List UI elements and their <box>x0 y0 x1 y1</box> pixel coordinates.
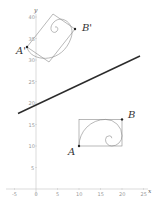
x-tick-label: 0 <box>35 191 38 197</box>
point-b-prime-label: B' <box>81 22 92 33</box>
y-tick-label: 15 <box>29 122 35 128</box>
point-b-label: B <box>127 109 135 120</box>
x-tick-label: 5 <box>56 191 59 197</box>
x-tick-label: 15 <box>98 191 104 197</box>
point-a-prime <box>26 46 28 48</box>
y-tick-label: 20 <box>29 100 35 106</box>
axes: -5 0 5 10 15 20 25 x 5 10 15 20 25 30 35… <box>6 6 152 197</box>
y-tick-label: 5 <box>31 165 34 171</box>
golden-spiral <box>79 119 122 146</box>
point-a-label: A <box>67 146 75 157</box>
x-axis-label: x <box>148 187 152 194</box>
x-tick-label: 10 <box>76 191 82 197</box>
y-tick-label: 30 <box>29 57 35 63</box>
point-b-prime <box>74 28 76 30</box>
x-tick-label: 25 <box>141 191 147 197</box>
y-tick-label: 40 <box>29 14 35 20</box>
y-axis-label: y <box>33 6 38 14</box>
x-tick-label: -5 <box>12 191 17 197</box>
point-b <box>121 118 123 120</box>
reflected-golden-rectangle <box>27 14 75 62</box>
y-tick-label: 25 <box>29 79 35 85</box>
point-a-prime-label: A' <box>15 45 26 56</box>
coordinate-plane: -5 0 5 10 15 20 25 x 5 10 15 20 25 30 35… <box>0 0 163 207</box>
y-tick-label: 10 <box>29 143 35 149</box>
x-tick-label: 20 <box>119 191 125 197</box>
original-golden-rectangle <box>79 119 122 146</box>
point-a <box>78 145 80 147</box>
